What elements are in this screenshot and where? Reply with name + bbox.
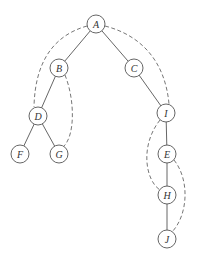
node-C: C <box>125 59 143 77</box>
node-G: G <box>50 145 68 163</box>
node-H: H <box>158 186 176 204</box>
node-E: E <box>158 145 176 163</box>
node-D: D <box>29 107 47 125</box>
tree-nodes: ABCDIFGEHJ <box>11 15 176 248</box>
node-label: C <box>131 63 138 74</box>
node-label: I <box>163 108 168 119</box>
node-B: B <box>50 59 68 77</box>
node-label: A <box>92 19 100 30</box>
tree-diagram: ABCDIFGEHJ <box>0 0 198 260</box>
node-A: A <box>87 15 105 33</box>
dashed-arc-B-G <box>64 75 72 146</box>
node-label: B <box>56 63 62 74</box>
node-label: H <box>162 190 171 201</box>
node-label: E <box>163 149 170 160</box>
node-I: I <box>157 104 175 122</box>
node-label: G <box>55 149 62 160</box>
tree-edges <box>20 24 167 239</box>
node-label: F <box>16 149 24 160</box>
node-label: J <box>165 234 170 245</box>
node-J: J <box>158 230 176 248</box>
node-label: D <box>33 111 42 122</box>
node-F: F <box>11 145 29 163</box>
